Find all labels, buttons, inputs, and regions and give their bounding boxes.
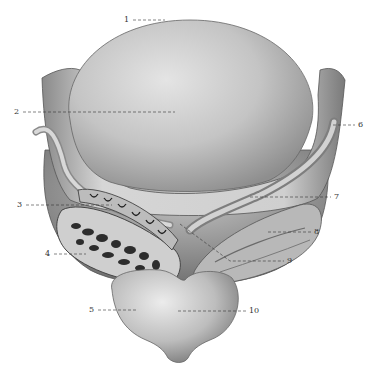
label-5: 5 [89,306,94,314]
label-10: 10 [249,307,259,315]
prostate [112,270,239,363]
label-6: 6 [358,121,363,129]
label-1: 1 [124,16,129,24]
anatomy-figure: 1 2 3 4 5 6 7 8 9 10 [0,0,381,375]
label-9: 9 [287,257,292,265]
bladder [69,20,313,192]
anatomy-illustration [0,0,381,375]
label-7: 7 [334,193,339,201]
label-2: 2 [14,108,19,116]
label-4: 4 [45,250,50,258]
label-8: 8 [314,228,319,236]
label-3: 3 [17,201,22,209]
